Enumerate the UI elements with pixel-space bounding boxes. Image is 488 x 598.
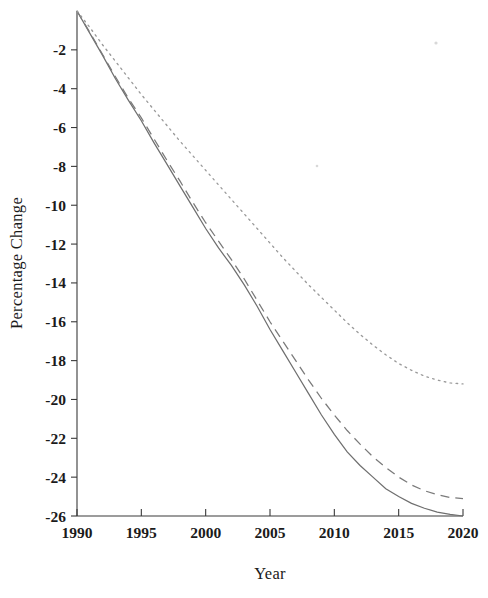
x-axis-tick-label: 2005 — [255, 524, 286, 541]
x-axis-tick-label: 2020 — [448, 524, 479, 541]
y-axis-tick-label: -6 — [53, 119, 66, 136]
y-axis-tick-label: -20 — [45, 391, 66, 408]
y-axis-tick-label: -26 — [45, 508, 66, 525]
y-axis-tick-label: -16 — [45, 313, 66, 330]
y-axis-tick-label: -22 — [45, 430, 66, 447]
y-axis-tick-label: -14 — [45, 274, 66, 291]
x-axis-tick-label: 1995 — [126, 524, 157, 541]
x-axis-tick-label: 2010 — [319, 524, 350, 541]
y-axis-tick-label: -4 — [53, 80, 66, 97]
y-axis-tick-label: -2 — [53, 41, 66, 58]
x-axis-tick-label: 2015 — [383, 524, 414, 541]
scan-speck — [316, 165, 319, 168]
chart-container: -2-4-6-8-10-12-14-16-18-20-22-24-26 1990… — [0, 0, 488, 598]
line-chart: -2-4-6-8-10-12-14-16-18-20-22-24-26 1990… — [0, 0, 488, 598]
y-axis-tick-label: -24 — [45, 469, 66, 486]
y-axis-tick-label: -8 — [53, 158, 66, 175]
y-axis-title: Percentage Change — [7, 197, 26, 329]
chart-background — [0, 0, 488, 598]
scan-speck — [434, 41, 437, 44]
y-axis-tick-label: -10 — [45, 197, 66, 214]
y-axis-tick-label: -12 — [45, 236, 66, 253]
x-axis-title: Year — [254, 564, 286, 583]
y-axis-tick-label: -18 — [45, 352, 66, 369]
x-axis-tick-label: 2000 — [190, 524, 221, 541]
x-axis-tick-label: 1990 — [62, 524, 93, 541]
